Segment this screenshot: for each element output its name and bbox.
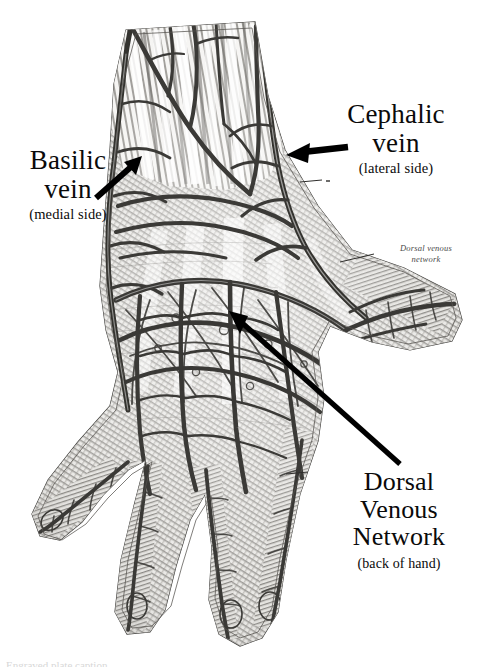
cephalic-vein-label-line1: Cephalic	[312, 100, 480, 129]
dvn-label-line1: Dorsal	[318, 468, 480, 496]
dorsal-venous-network-label: Dorsal Venous Network (back of hand)	[318, 468, 480, 571]
dorsal-venous-network-plate-caption: Dorsal venous network	[374, 243, 478, 264]
cephalic-vein-label: Cephalic vein (lateral side)	[312, 100, 480, 177]
cephalic-vein-label-line2: vein	[312, 129, 480, 158]
bottom-cropped-caption: Engraved plate caption	[6, 659, 306, 667]
dvn-label-line2: Venous	[318, 496, 480, 524]
dvn-label-sub: (back of hand)	[318, 557, 480, 572]
basilic-vein-label-line2: vein	[2, 175, 134, 204]
basilic-vein-label: Basilic vein (medial side)	[2, 146, 134, 223]
basilic-vein-label-line1: Basilic	[2, 146, 134, 175]
figure-canvas: Dorsal venous network Cephalic vein (lat…	[0, 0, 480, 667]
plate-caption-line2: network	[412, 254, 441, 264]
basilic-vein-label-sub: (medial side)	[2, 207, 134, 222]
plate-caption-line1: Dorsal venous	[400, 243, 452, 253]
dvn-label-line3: Network	[318, 523, 480, 551]
cephalic-vein-label-sub: (lateral side)	[312, 161, 480, 176]
